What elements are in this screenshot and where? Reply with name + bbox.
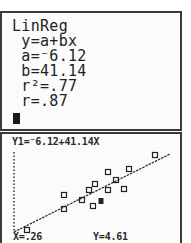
data-point-icon <box>122 187 127 192</box>
trace-cursor-icon <box>99 198 104 204</box>
data-point-icon <box>106 188 111 193</box>
data-points <box>25 153 158 233</box>
home-screen: LinReg y=a+bx a=⁻6.12 b=41.14 r²=.77 r=.… <box>0 11 182 131</box>
data-point-icon <box>93 182 98 187</box>
data-point-icon <box>153 153 158 158</box>
graph-screen: Y1=⁻6.12+41.14X X=.26 Y=4.61 <box>0 132 182 243</box>
data-point-icon <box>87 188 92 193</box>
data-point-icon <box>62 193 67 198</box>
scatter-plot <box>2 134 184 243</box>
data-point-icon <box>91 204 96 209</box>
block-cursor-icon <box>13 113 20 124</box>
data-point-icon <box>106 170 111 175</box>
equation-label: Y1=⁻6.12+41.14X <box>12 137 99 147</box>
trace-y-value: Y=4.61 <box>93 232 128 242</box>
data-point-icon <box>127 167 132 172</box>
trace-x-value: X=.26 <box>13 232 42 242</box>
correlation-r: r=.87 <box>12 93 68 109</box>
